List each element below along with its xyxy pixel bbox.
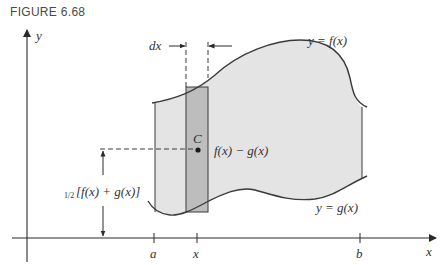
y-axis-label: y <box>34 28 42 43</box>
strip-height-label: f(x) − g(x) <box>214 143 268 158</box>
centroid-diagram: dx C f(x) − g(x) 1/2 [f(x) + g(x)] y x a… <box>0 0 446 265</box>
tick-label-a: a <box>150 246 157 261</box>
tick-label-x: x <box>192 246 199 261</box>
upper-curve-label: y = f(x) <box>306 33 347 48</box>
centroid-label: C <box>193 131 202 146</box>
x-axis-label: x <box>425 244 432 259</box>
centroid-point <box>195 147 200 152</box>
half-fraction: 1/2 <box>64 191 74 200</box>
centroid-height-label: [f(x) + g(x)] <box>76 184 140 199</box>
dx-label: dx <box>149 38 162 53</box>
tick-label-b: b <box>356 246 363 261</box>
lower-curve-label: y = g(x) <box>314 200 358 215</box>
